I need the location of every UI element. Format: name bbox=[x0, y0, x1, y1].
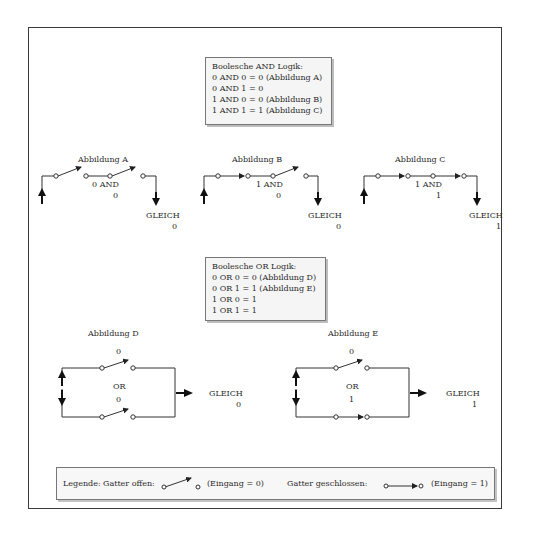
figure-a-circuit bbox=[42, 167, 156, 203]
legend-box: Legende: Gatter offen: (Eingang = 0) Gat… bbox=[56, 467, 495, 500]
figure-d-circuit bbox=[62, 360, 175, 419]
output-arrow-icon bbox=[473, 192, 481, 206]
input-arrow-icon bbox=[360, 188, 368, 204]
input-arrow-up-icon bbox=[292, 370, 300, 386]
legend-open-value: (Eingang = 0) bbox=[207, 479, 264, 488]
open-gate-icon bbox=[161, 474, 201, 492]
figure-e-circuit bbox=[296, 360, 409, 419]
output-arrow-icon bbox=[176, 389, 193, 397]
output-arrow-icon bbox=[410, 389, 427, 397]
output-arrow-icon bbox=[314, 192, 322, 206]
input-arrow-down-icon bbox=[58, 390, 66, 406]
input-arrow-up-icon bbox=[58, 370, 66, 386]
circuit-diagrams bbox=[0, 0, 534, 537]
input-arrow-icon bbox=[200, 188, 208, 204]
input-arrow-down-icon bbox=[292, 390, 300, 406]
input-arrow-icon bbox=[38, 188, 46, 204]
figure-c-circuit bbox=[364, 174, 477, 203]
legend-closed-label: Gatter geschlossen: bbox=[287, 479, 367, 488]
figure-b-circuit bbox=[204, 167, 318, 203]
legend-open-label: Gatter offen: bbox=[103, 479, 155, 488]
output-arrow-icon bbox=[152, 192, 160, 206]
legend-label: Legende: bbox=[63, 479, 101, 488]
closed-gate-icon bbox=[383, 474, 425, 492]
legend-closed-value: (Eingang = 1) bbox=[431, 479, 488, 488]
